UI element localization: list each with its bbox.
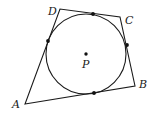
tangent-point	[46, 39, 50, 43]
center-point-p	[84, 52, 87, 55]
vertex-label-d: D	[47, 5, 57, 18]
tangent-point	[92, 91, 96, 95]
geometry-diagram: A B C D P	[0, 0, 153, 113]
vertex-label-b: B	[138, 78, 147, 91]
tangent-point	[125, 43, 129, 47]
tangent-point	[91, 12, 95, 16]
center-label-p: P	[81, 58, 90, 71]
vertex-label-c: C	[125, 14, 134, 27]
vertex-label-a: A	[11, 98, 20, 111]
quadrilateral-abcd	[25, 9, 135, 104]
